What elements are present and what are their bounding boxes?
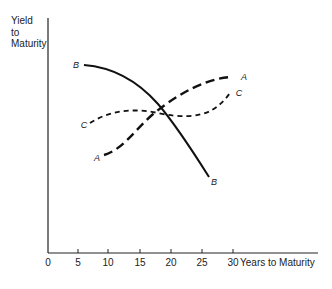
curve-b — [84, 65, 209, 177]
curve-c-end-label: C — [236, 88, 243, 98]
chart-canvas — [0, 0, 332, 289]
x-tick-label-10: 10 — [102, 257, 113, 268]
x-tick-label-30: 30 — [227, 257, 238, 268]
x-tick-label-15: 15 — [134, 257, 145, 268]
yield-curve-chart: Yield to Maturity 0 5 10 15 20 25 30 Yea… — [0, 0, 332, 289]
curve-b-end-label: B — [211, 177, 217, 187]
x-tick-label-25: 25 — [196, 257, 207, 268]
curve-c-start-label: C — [81, 120, 88, 130]
y-axis-label-line-1: Yield — [11, 15, 47, 27]
x-tick-label-20: 20 — [165, 257, 176, 268]
x-tick-label-0: 0 — [45, 257, 51, 268]
y-axis-label-line-3: Maturity — [11, 38, 47, 50]
curve-a-end-label: A — [241, 72, 247, 82]
curve-b-start-label: B — [73, 60, 79, 70]
y-axis-label-line-2: to — [11, 27, 47, 39]
x-axis-label: Years to Maturity — [240, 257, 315, 268]
curve-a-start-label: A — [94, 153, 100, 163]
y-axis-label: Yield to Maturity — [11, 15, 47, 50]
x-tick-label-5: 5 — [75, 257, 81, 268]
